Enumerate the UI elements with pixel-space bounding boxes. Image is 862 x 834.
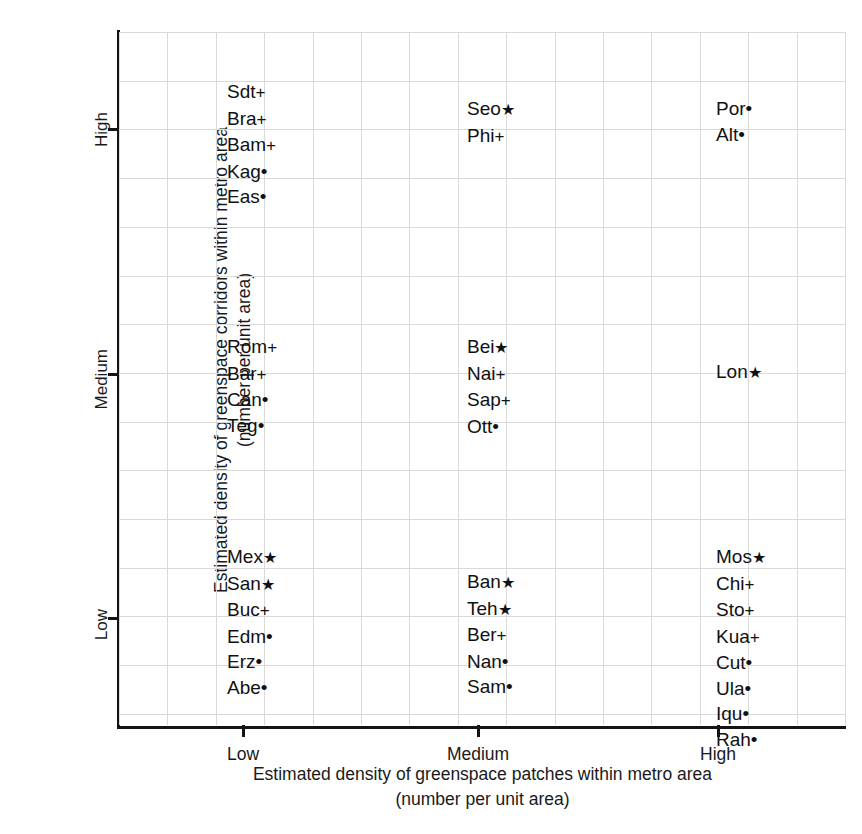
- data-point-bam: Bam+: [227, 132, 276, 159]
- marker-star-icon: ★: [748, 364, 762, 381]
- data-point-label: Can: [227, 389, 262, 410]
- data-point-label: Ott: [467, 416, 492, 437]
- data-point-label: Mex: [227, 546, 263, 567]
- data-point-label: Nai: [467, 363, 496, 384]
- data-point-label: Buc: [227, 599, 260, 620]
- data-point-kag: Kag•: [227, 159, 276, 185]
- data-point-label: Sap: [467, 389, 501, 410]
- marker-dot-icon: •: [266, 626, 273, 647]
- marker-dot-icon: •: [738, 124, 745, 145]
- point-cluster-medium-high: Seo★Phi+: [467, 96, 515, 149]
- marker-dot-icon: •: [745, 678, 752, 699]
- data-point-sto: Sto+: [716, 597, 766, 624]
- marker-star-icon: ★: [498, 601, 512, 618]
- data-point-label: Phi: [467, 125, 494, 146]
- point-cluster-low-high: Sdt+Bra+Bam+Kag•Eas•: [227, 79, 276, 210]
- data-point-erz: Erz•: [227, 649, 277, 675]
- data-point-ott: Ott•: [467, 414, 511, 440]
- data-point-abe: Abe•: [227, 675, 277, 701]
- data-point-bra: Bra+: [227, 106, 276, 133]
- marker-star-icon: ★: [752, 549, 766, 566]
- marker-plus-icon: +: [266, 136, 276, 155]
- marker-plus-icon: +: [497, 626, 507, 645]
- data-point-sap: Sap+: [467, 387, 511, 414]
- data-point-seo: Seo★: [467, 96, 515, 123]
- marker-dot-icon: •: [751, 729, 758, 750]
- marker-dot-icon: •: [262, 389, 269, 410]
- data-point-kua: Kua+: [716, 624, 766, 651]
- data-point-mos: Mos★: [716, 544, 766, 571]
- data-point-label: Mos: [716, 546, 752, 567]
- data-point-iqu: Iqu•: [716, 701, 766, 727]
- data-point-label: Edm: [227, 626, 266, 647]
- marker-dot-icon: •: [742, 703, 749, 724]
- point-cluster-low-low: Mex★San★Buc+Edm•Erz•Abe•: [227, 544, 277, 700]
- marker-dot-icon: •: [502, 651, 509, 672]
- data-point-label: Teg: [227, 415, 258, 436]
- data-point-label: Bar: [227, 363, 257, 384]
- x-tick-mark-low: [242, 725, 245, 737]
- data-point-label: Ula: [716, 678, 745, 699]
- marker-star-icon: ★: [501, 574, 515, 591]
- marker-plus-icon: +: [750, 628, 760, 647]
- x-tick-mark-medium: [477, 725, 480, 737]
- marker-dot-icon: •: [258, 415, 265, 436]
- marker-plus-icon: +: [745, 601, 755, 620]
- data-point-label: Iqu: [716, 703, 742, 724]
- y-tick-label-high: High: [92, 112, 112, 147]
- data-point-rah: Rah•: [716, 727, 766, 753]
- data-point-buc: Buc+: [227, 597, 277, 624]
- data-point-nan: Nan•: [467, 649, 515, 675]
- data-point-label: Seo: [467, 98, 501, 119]
- data-point-label: Eas: [227, 186, 260, 207]
- data-point-label: Erz: [227, 651, 256, 672]
- data-point-cut: Cut•: [716, 650, 766, 676]
- point-cluster-high-medium: Lon★: [716, 359, 762, 386]
- marker-plus-icon: +: [257, 110, 267, 129]
- scatter-chart-figure: Estimated density of greenspace corridor…: [0, 0, 862, 834]
- data-point-label: Por: [716, 98, 746, 119]
- marker-star-icon: ★: [263, 549, 277, 566]
- data-point-lon: Lon★: [716, 359, 762, 386]
- y-tick-label-low: Low: [92, 609, 112, 640]
- data-point-alt: Alt•: [716, 122, 752, 148]
- data-point-teg: Teg•: [227, 413, 277, 439]
- data-point-label: Nan: [467, 651, 502, 672]
- point-cluster-low-medium: Rom+Bar+Can•Teg•: [227, 334, 277, 438]
- x-axis-title-line2: (number per unit area): [119, 787, 846, 812]
- marker-star-icon: ★: [261, 576, 275, 593]
- data-point-label: Sdt: [227, 81, 256, 102]
- data-point-label: Bam: [227, 134, 266, 155]
- data-point-label: Sam: [467, 676, 506, 697]
- marker-plus-icon: +: [494, 127, 504, 146]
- marker-dot-icon: •: [256, 651, 263, 672]
- data-point-label: Bra: [227, 108, 257, 129]
- plot-area: Low Medium High Low Medium High Sdt+Bra+…: [119, 32, 846, 725]
- data-point-rom: Rom+: [227, 334, 277, 361]
- data-point-mex: Mex★: [227, 544, 277, 571]
- point-cluster-medium-low: Ban★Teh★Ber+Nan•Sam•: [467, 569, 515, 700]
- marker-plus-icon: +: [501, 391, 511, 410]
- data-point-ban: Ban★: [467, 569, 515, 596]
- marker-plus-icon: +: [496, 365, 506, 384]
- data-point-label: Teh: [467, 598, 498, 619]
- x-axis-title-line1: Estimated density of greenspace patches …: [119, 762, 846, 787]
- marker-dot-icon: •: [746, 98, 753, 119]
- data-point-bei: Bei★: [467, 334, 511, 361]
- data-point-teh: Teh★: [467, 596, 515, 623]
- data-point-edm: Edm•: [227, 624, 277, 650]
- data-point-label: San: [227, 573, 261, 594]
- data-point-phi: Phi+: [467, 123, 515, 150]
- marker-dot-icon: •: [260, 186, 267, 207]
- marker-dot-icon: •: [492, 416, 499, 437]
- data-point-ber: Ber+: [467, 622, 515, 649]
- marker-plus-icon: +: [745, 575, 755, 594]
- data-point-sdt: Sdt+: [227, 79, 276, 106]
- data-point-can: Can•: [227, 387, 277, 413]
- data-point-ula: Ula•: [716, 676, 766, 702]
- data-point-label: Ban: [467, 571, 501, 592]
- point-cluster-high-low: Mos★Chi+Sto+Kua+Cut•Ula•Iqu•Rah•: [716, 544, 766, 752]
- data-point-bar: Bar+: [227, 361, 277, 388]
- data-point-label: Ber: [467, 624, 497, 645]
- marker-plus-icon: +: [267, 338, 277, 357]
